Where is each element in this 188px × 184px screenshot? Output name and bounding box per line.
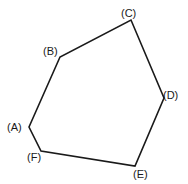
vertex-label-c: (C) [121, 7, 136, 19]
vertex-label-a: (A) [7, 121, 22, 133]
polygon-diagram: (A) (B) (C) (D) (E) (F) [0, 0, 188, 184]
vertex-label-e: (E) [133, 168, 148, 180]
hexagon-outline [29, 20, 164, 166]
vertex-label-b: (B) [43, 45, 58, 57]
vertex-label-f: (F) [27, 151, 41, 163]
vertex-label-d: (D) [163, 89, 178, 101]
